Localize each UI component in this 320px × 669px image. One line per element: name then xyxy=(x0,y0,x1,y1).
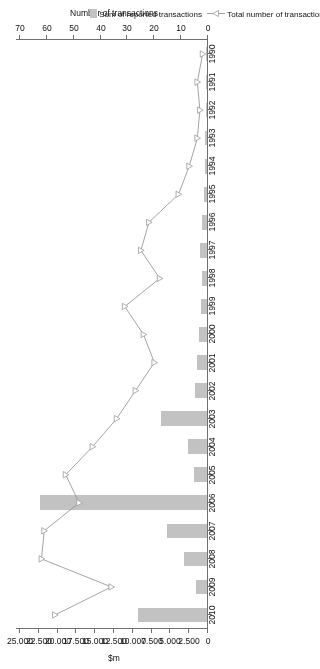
data-point-2006 xyxy=(77,500,83,506)
legend-entry-line: Total number of transactions xyxy=(207,9,250,19)
data-point-1998 xyxy=(157,275,163,281)
data-point-1992 xyxy=(198,107,204,113)
transactions-line xyxy=(0,0,250,669)
chart-figure: 02.5005.0007.50010.00012.50015.00017.500… xyxy=(0,0,250,669)
legend-bar-label: Sum of reported transactions xyxy=(99,10,202,19)
legend-line-label: Total number of transactions xyxy=(227,10,250,19)
data-point-2003 xyxy=(114,415,120,421)
data-point-2001 xyxy=(152,359,158,365)
data-point-2009 xyxy=(109,584,115,590)
data-point-2010 xyxy=(53,612,59,618)
data-point-1990 xyxy=(200,51,206,57)
legend-line-icon xyxy=(207,9,225,18)
legend-bar-swatch xyxy=(90,9,97,18)
chart-canvas: 02.5005.0007.50010.00012.50015.00017.500… xyxy=(0,0,250,669)
data-point-1995 xyxy=(176,191,182,197)
transactions-polyline xyxy=(42,54,203,615)
data-point-2002 xyxy=(133,387,139,393)
legend-entry-bar: Sum of reported transactions xyxy=(90,9,202,19)
